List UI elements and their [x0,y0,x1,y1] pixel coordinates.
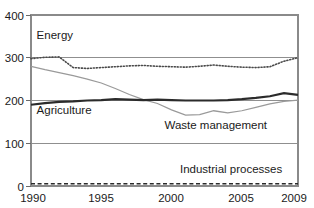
chart-canvas: 400 300 200 100 0 1990 1995 2000 2005 20… [0,0,314,208]
series-label-waste-management: Waste management [165,119,268,131]
series-line-energy [31,57,298,69]
x-tick-label: 1995 [88,192,114,204]
x-tick-label: 2005 [228,192,254,204]
x-tick-label: 1990 [20,192,46,204]
y-tick-label: 100 [5,138,24,150]
y-tick-label: 0 [18,181,24,193]
x-tick-label: 2009 [281,192,307,204]
series-label-agriculture: Agriculture [37,104,92,116]
x-tick-label: 2000 [158,192,184,204]
y-tick-label: 300 [5,52,24,64]
y-axis-tick-labels: 400 300 200 100 0 [5,10,24,193]
y-tick-label: 200 [5,95,24,107]
y-axis-ticks [26,16,31,187]
line-chart: 400 300 200 100 0 1990 1995 2000 2005 20… [0,0,314,208]
y-tick-label: 400 [5,10,24,22]
series-label-energy: Energy [37,29,74,41]
series-line-agriculture [31,93,298,105]
x-axis-tick-labels: 1990 1995 2000 2005 2009 [20,192,307,204]
series-label-industrial-processes: Industrial processes [180,163,283,175]
